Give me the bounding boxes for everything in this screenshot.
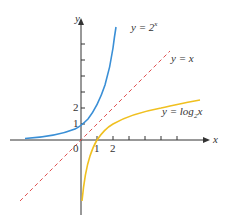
graph-figure: y x 0 1 2 1 2 y = 2x y = x y = log2x bbox=[0, 0, 231, 216]
origin-label: 0 bbox=[73, 142, 79, 154]
y-axis-label: y bbox=[75, 12, 80, 24]
x-tick-2-label: 2 bbox=[110, 142, 116, 154]
identity-line-label: y = x bbox=[171, 52, 194, 64]
x-axis-label: x bbox=[213, 133, 218, 145]
y-tick-2-label: 2 bbox=[73, 101, 79, 113]
exp-curve-label: y = 2x bbox=[131, 20, 157, 33]
x-tick-1-label: 1 bbox=[94, 142, 100, 154]
x-ticks bbox=[97, 136, 177, 140]
y-ticks bbox=[81, 44, 85, 124]
y-tick-1-label: 1 bbox=[73, 117, 79, 129]
exponential-curve bbox=[25, 27, 116, 139]
log-curve-label: y = log2x bbox=[162, 105, 202, 120]
x-axis-arrow-icon bbox=[203, 137, 210, 143]
identity-line bbox=[20, 51, 170, 201]
